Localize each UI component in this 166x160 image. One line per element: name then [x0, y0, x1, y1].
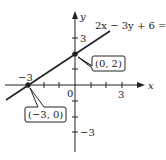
equation-label: 2x − 3y + 6 = 0 — [95, 20, 166, 31]
point-label-0-2: (0, 2) — [95, 58, 122, 69]
coordinate-plane: y x 0 3 −3 3 −3 2x − 3y + 6 = 0 (0, 2) (… — [0, 0, 166, 160]
y-axis-arrow-icon — [72, 11, 78, 19]
y-tick-label-3: 3 — [80, 33, 86, 44]
x-tick-label-3: 3 — [118, 89, 124, 100]
point-label-neg3-0: (−3, 0) — [28, 109, 63, 120]
x-axis-arrow-icon — [137, 82, 145, 88]
graph-figure: y x 0 3 −3 3 −3 2x − 3y + 6 = 0 (0, 2) (… — [0, 0, 166, 160]
origin-label: 0 — [67, 88, 73, 99]
point-neg3-0 — [25, 82, 30, 87]
x-axis-label: x — [148, 80, 154, 91]
x-tick-label-neg3: −3 — [18, 72, 33, 83]
y-axis-label: y — [79, 11, 86, 22]
y-tick-label-neg3: −3 — [80, 127, 95, 138]
point-0-2 — [72, 51, 77, 56]
